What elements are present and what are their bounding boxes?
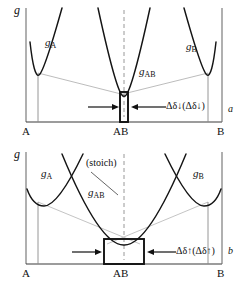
curve-label-g-b-panel-a-sub: B (192, 45, 197, 54)
x-tick-label-a-middle: AB (113, 126, 128, 137)
x-tick-label-b-right: B (217, 268, 224, 279)
common-tangent-right-a (119, 73, 208, 95)
curve-label-g-b-panel-a-base: g (186, 40, 192, 52)
common-tangent-left-b (38, 202, 140, 244)
curve-label-g-b-panel-b-base: g (193, 167, 199, 179)
width-arrow-left-b (72, 249, 102, 255)
curve-label-g-ab-panel-a-sub: AB (145, 70, 156, 79)
curve-g-b-panel-b (165, 154, 221, 206)
curve-label-g-a-panel-b-sub: A (47, 172, 53, 181)
panel-tag-b: b (228, 246, 233, 256)
panel-a-plot (0, 0, 240, 143)
curve-label-g-b-panel-a: gB (186, 41, 197, 52)
width-annotation-b: Δδ↑(Δδ↑) (176, 246, 215, 256)
curve-label-g-b-panel-b-sub: B (199, 172, 204, 181)
curve-label-g-ab-panel-b-sub: AB (94, 191, 105, 200)
width-annotation-a: Δδ↓(Δδ↓) (166, 101, 205, 111)
curve-label-g-ab-panel-b: gAB (88, 187, 104, 198)
curve-label-g-ab-panel-b-base: g (88, 186, 94, 198)
width-arrow-right-b (147, 249, 170, 255)
y-axis-label-b: g (14, 148, 20, 160)
curve-label-g-a-panel-a-base: g (45, 36, 51, 48)
common-tangent-left-a (38, 73, 125, 95)
curve-label-g-a-panel-b-base: g (41, 167, 47, 179)
x-tick-label-b-middle: AB (113, 268, 128, 279)
curve-label-g-ab-panel-a: gAB (139, 66, 155, 77)
common-tangent-right-b (107, 202, 208, 244)
panel-a: g gA gAB gB Δδ↓(Δδ↓) a A AB B (0, 0, 240, 143)
figure-root: g gA gAB gB Δδ↓(Δδ↓) a A AB B (0, 0, 240, 285)
width-arrow-right-a (131, 104, 160, 110)
curve-label-g-a-panel-a: gA (45, 37, 56, 48)
x-tick-label-a-left: A (22, 126, 30, 137)
curve-label-g-a-panel-a-sub: A (51, 41, 57, 50)
width-arrow-left-a (88, 104, 119, 110)
curve-label-g-b-panel-b: gB (193, 168, 204, 179)
y-axis-label-a: g (14, 4, 20, 16)
panel-b: g gA gAB gB (stoich) Δδ↑(Δδ↑) b A AB B (0, 142, 240, 285)
curve-label-g-a-panel-b: gA (41, 168, 52, 179)
panel-tag-a: a (228, 104, 233, 114)
x-tick-label-b-left: A (22, 268, 30, 279)
stoich-annotation-b: (stoich) (86, 158, 117, 168)
panel-b-plot (0, 142, 240, 285)
curve-g-a-panel-b (27, 154, 83, 206)
x-tick-label-a-right: B (217, 126, 224, 137)
curve-label-g-ab-panel-a-base: g (139, 65, 145, 77)
